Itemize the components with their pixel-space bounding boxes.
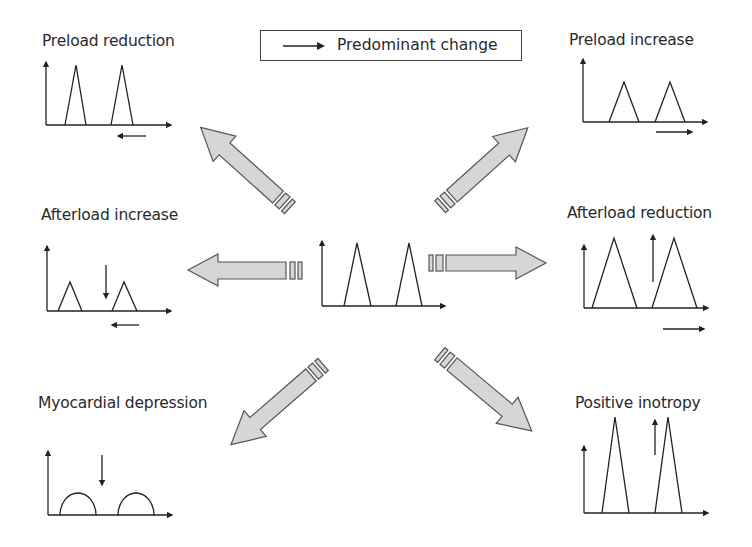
panel-afterload-increase — [47, 246, 171, 325]
arrow-to-preload-reduction — [189, 115, 301, 221]
arrow-to-preload-increase — [429, 115, 539, 219]
arrow-to-positive-inotropy — [429, 341, 543, 444]
arrow-to-myocardial-depression — [220, 352, 334, 458]
arrow-to-afterload-increase — [188, 254, 302, 286]
panel-afterload-reduction — [584, 235, 708, 329]
panel-myocardial-depression — [48, 451, 172, 515]
panel-preload-reduction — [46, 62, 171, 136]
diagram-canvas — [0, 0, 752, 547]
panel-preload-increase — [583, 59, 707, 132]
panel-positive-inotropy — [584, 417, 708, 513]
panel-baseline — [322, 241, 445, 306]
arrow-to-afterload-reduction — [429, 247, 546, 279]
